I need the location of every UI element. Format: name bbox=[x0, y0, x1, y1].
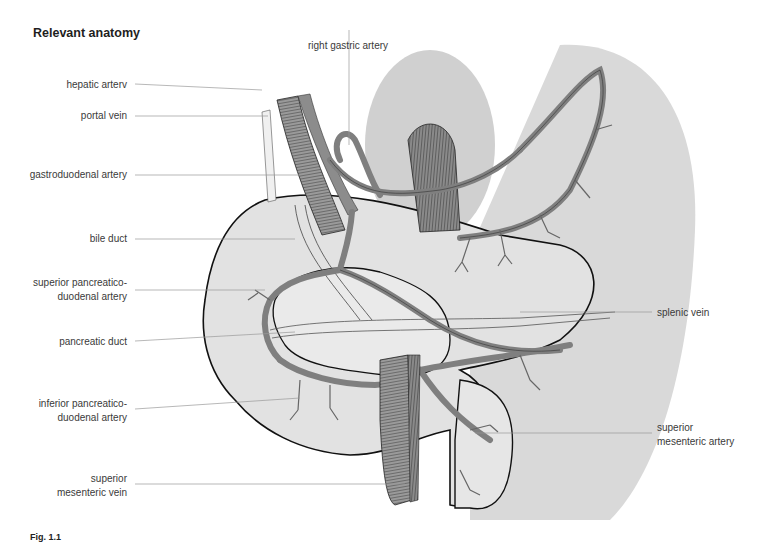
superior-mesenteric-vein-vessel bbox=[380, 355, 412, 505]
label-superior-mesenteric-vein: superior mesenteric vein bbox=[57, 472, 127, 499]
label-superior-pancreaticoduodenal-artery: superior pancreatico- duodenal artery bbox=[33, 276, 127, 303]
label-splenic-vein: splenic vein bbox=[657, 306, 709, 320]
label-gastroduodenal-artery: gastroduodenal artery bbox=[30, 168, 127, 182]
label-pancreatic-duct: pancreatic duct bbox=[59, 335, 127, 349]
superior-mesenteric-artery-vessel bbox=[408, 355, 420, 502]
label-hepatic-artery: hepatic arterv bbox=[66, 78, 127, 92]
figure-number: Fig. 1.1 bbox=[30, 532, 61, 542]
label-bile-duct: bile duct bbox=[90, 232, 127, 246]
label-portal-vein: portal vein bbox=[81, 109, 127, 123]
label-superior-mesenteric-artery: superior mesenteric artery bbox=[657, 421, 734, 448]
label-right-gastric-artery: right gastric artery bbox=[308, 39, 388, 53]
label-inferior-pancreaticoduodenal-artery: inferior pancreatico- duodenal artery bbox=[39, 397, 127, 424]
common-bile-duct bbox=[262, 110, 276, 202]
